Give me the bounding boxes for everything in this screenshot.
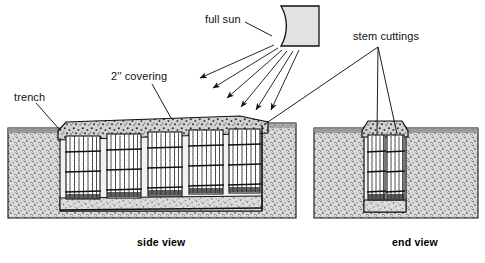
end-view-group	[314, 121, 478, 218]
caption-end-view: end view	[392, 237, 438, 248]
label-trench: trench	[14, 92, 45, 103]
side-view-surface-band-right	[268, 123, 296, 128]
end-view-trench-floor-soil	[364, 200, 406, 212]
leader-line-icon	[245, 22, 272, 36]
end-view-bundle-2	[386, 135, 405, 200]
side-view-bundle-2	[106, 134, 142, 198]
sun-ray-arrow-icon	[241, 51, 287, 107]
side-view-surface-band-left	[8, 128, 60, 133]
side-view-group	[8, 116, 296, 218]
label-covering: 2'' covering	[111, 71, 167, 82]
end-view-surface-band-left	[314, 128, 366, 133]
leader-line-icon	[152, 84, 171, 118]
leader-line-icon	[36, 103, 60, 130]
sun-rays-group	[200, 45, 299, 110]
side-view-bundle-4	[188, 130, 224, 194]
side-view-bundle-3	[147, 132, 183, 196]
label-stem-cuttings: stem cuttings	[353, 31, 419, 42]
label-full-sun: full sun	[205, 14, 241, 25]
sun-ray-arrow-icon	[256, 51, 293, 110]
sun-quarter-disc-icon	[281, 6, 319, 46]
end-view-bundle-1	[367, 135, 386, 200]
end-view-surface-band-right	[400, 128, 478, 133]
figure-canvas: trench 2'' covering full sun stem cuttin…	[0, 0, 485, 263]
caption-side-view: side view	[137, 237, 186, 248]
side-view-bundle-5	[228, 129, 261, 193]
side-view-bundle-1	[65, 136, 101, 199]
